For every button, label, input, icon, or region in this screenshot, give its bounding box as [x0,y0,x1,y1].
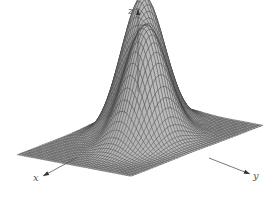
surface-mesh [17,0,263,176]
surface-plot: x y z [0,0,269,202]
x-axis-label: x [33,172,39,183]
y-axis-label: y [252,170,259,181]
x-arrowhead-icon [43,171,49,176]
y-axis-arrow [209,158,250,174]
y-arrowhead-icon [244,170,250,174]
z-axis-label: z [127,5,134,16]
